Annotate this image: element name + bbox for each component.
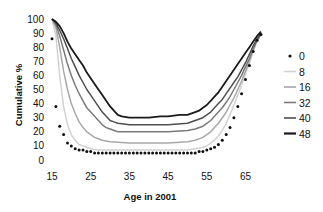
data-point [78, 149, 81, 152]
data-point [101, 151, 104, 154]
data-point [62, 133, 65, 136]
series-line-40 [52, 19, 261, 125]
data-point [205, 149, 208, 152]
data-point [140, 151, 143, 154]
y-tick-label: 0 [38, 155, 44, 166]
legend-label: 0 [299, 50, 305, 62]
data-point [124, 151, 127, 154]
data-point [51, 37, 54, 40]
y-axis-title: Cumulative % [13, 63, 24, 126]
x-axis-ticks: 152535455565 [46, 171, 251, 182]
x-tick-label: 25 [85, 171, 97, 182]
data-point [229, 126, 232, 129]
data-point [155, 151, 158, 154]
data-point [260, 33, 263, 36]
y-tick-label: 10 [33, 140, 45, 151]
cumulative-percent-line-chart: 0102030405060708090100 152535455565 Cumu… [0, 0, 323, 212]
legend: 0816324048 [284, 50, 311, 140]
data-point [217, 143, 220, 146]
y-tick-label: 100 [27, 14, 44, 25]
y-tick-label: 90 [33, 28, 45, 39]
data-point [163, 151, 166, 154]
data-point [143, 151, 146, 154]
data-point [132, 151, 135, 154]
data-point [240, 92, 243, 95]
y-axis-ticks: 0102030405060708090100 [27, 14, 44, 166]
data-point [182, 151, 185, 154]
y-tick-label: 30 [33, 112, 45, 123]
data-point [93, 151, 96, 154]
legend-marker-dot [288, 54, 291, 57]
data-point [54, 105, 57, 108]
data-point [74, 147, 77, 150]
data-point [116, 151, 119, 154]
data-point [109, 151, 112, 154]
y-tick-label: 60 [33, 70, 45, 81]
data-point [66, 142, 69, 145]
data-point [201, 150, 204, 153]
legend-label: 16 [299, 81, 311, 93]
data-point [252, 50, 255, 53]
data-point [209, 147, 212, 150]
data-point [120, 151, 123, 154]
legend-item-8: 8 [284, 66, 305, 78]
data-point [194, 151, 197, 154]
y-tick-label: 40 [33, 98, 45, 109]
plot-area [51, 19, 263, 154]
data-point [244, 78, 247, 81]
data-point [85, 150, 88, 153]
data-point [256, 39, 259, 42]
legend-item-40: 40 [284, 112, 311, 124]
data-point [236, 105, 239, 108]
data-point [248, 64, 251, 67]
data-point [213, 146, 216, 149]
data-point [171, 151, 174, 154]
x-tick-label: 55 [201, 171, 213, 182]
data-point [112, 151, 115, 154]
data-point [128, 151, 131, 154]
x-tick-label: 15 [46, 171, 58, 182]
legend-item-0: 0 [288, 50, 305, 62]
data-point [147, 151, 150, 154]
data-point [89, 150, 92, 153]
x-tick-label: 45 [163, 171, 175, 182]
data-point [105, 151, 108, 154]
data-point [159, 151, 162, 154]
data-point [232, 116, 235, 119]
data-point [151, 151, 154, 154]
y-tick-label: 80 [33, 42, 45, 53]
data-point [198, 150, 201, 153]
legend-label: 40 [299, 112, 311, 124]
data-point [174, 151, 177, 154]
legend-item-48: 48 [284, 128, 311, 140]
data-point [221, 139, 224, 142]
legend-item-32: 32 [284, 97, 311, 109]
y-tick-label: 70 [33, 56, 45, 67]
data-point [70, 144, 73, 147]
y-tick-label: 50 [33, 84, 45, 95]
legend-label: 32 [299, 97, 311, 109]
x-axis-title: Age in 2001 [124, 191, 178, 202]
data-point [136, 151, 139, 154]
data-point [82, 149, 85, 152]
data-point [186, 151, 189, 154]
data-point [58, 125, 61, 128]
data-point [178, 151, 181, 154]
data-point [97, 151, 100, 154]
legend-item-16: 16 [284, 81, 311, 93]
data-point [190, 151, 193, 154]
y-tick-label: 20 [33, 126, 45, 137]
legend-label: 8 [299, 66, 305, 78]
x-tick-label: 65 [240, 171, 252, 182]
legend-label: 48 [299, 128, 311, 140]
x-tick-label: 35 [124, 171, 136, 182]
series-dots-0 [51, 33, 263, 154]
data-point [167, 151, 170, 154]
data-point [225, 133, 228, 136]
